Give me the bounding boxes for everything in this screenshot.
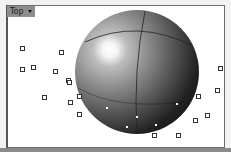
- control-point[interactable]: [176, 133, 181, 138]
- control-point[interactable]: [59, 50, 64, 55]
- surface-point[interactable]: [106, 107, 108, 109]
- surface-point[interactable]: [176, 103, 178, 105]
- control-point[interactable]: [42, 95, 47, 100]
- control-point[interactable]: [53, 69, 58, 74]
- control-point[interactable]: [196, 94, 201, 99]
- control-point[interactable]: [20, 46, 25, 51]
- control-point[interactable]: [77, 112, 82, 117]
- control-point[interactable]: [67, 80, 72, 85]
- triangle-down-icon[interactable]: [28, 10, 32, 13]
- control-point[interactable]: [77, 94, 82, 99]
- surface-point[interactable]: [136, 116, 138, 118]
- control-point[interactable]: [205, 113, 210, 118]
- surface-point[interactable]: [155, 124, 157, 126]
- viewport-title: Top: [10, 6, 24, 17]
- surface-point[interactable]: [126, 126, 128, 128]
- control-point[interactable]: [218, 66, 223, 71]
- viewport-bottom-border: [0, 148, 231, 152]
- control-point[interactable]: [215, 88, 220, 93]
- control-point[interactable]: [193, 118, 198, 123]
- viewport-title-tab[interactable]: Top: [7, 6, 35, 17]
- control-point[interactable]: [152, 133, 157, 138]
- control-point[interactable]: [68, 100, 73, 105]
- control-point[interactable]: [20, 67, 25, 72]
- control-point[interactable]: [31, 65, 36, 70]
